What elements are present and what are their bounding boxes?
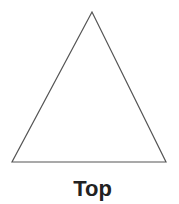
view-label: Top — [0, 176, 179, 202]
triangle-outline — [12, 12, 166, 162]
triangle-shape — [0, 0, 179, 204]
